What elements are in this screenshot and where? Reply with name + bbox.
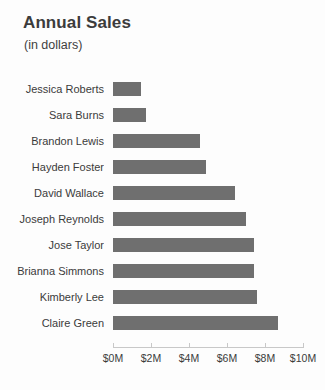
x-axis-tick <box>151 343 152 348</box>
bar-category-label: Hayden Foster <box>0 154 104 180</box>
bar-row: David Wallace <box>0 180 325 206</box>
x-axis-tick-label: $0M <box>103 352 123 364</box>
bar-row: Kimberly Lee <box>0 284 325 310</box>
bar-track <box>113 310 303 336</box>
x-axis-tick <box>113 343 114 348</box>
chart-subtitle: (in dollars) <box>24 38 82 52</box>
bar-category-label: Claire Green <box>0 310 104 336</box>
bar-category-label: Sara Burns <box>0 102 104 128</box>
x-axis-tick <box>303 343 304 348</box>
bar <box>113 238 254 252</box>
bar-category-label: Joseph Reynolds <box>0 206 104 232</box>
bar-row: Jessica Roberts <box>0 76 325 102</box>
chart-title: Annual Sales <box>23 13 131 33</box>
bar <box>113 134 200 148</box>
bar-row: Joseph Reynolds <box>0 206 325 232</box>
bar-row: Hayden Foster <box>0 154 325 180</box>
x-axis-tick <box>189 343 190 348</box>
bar-row: Sara Burns <box>0 102 325 128</box>
x-axis-tick <box>265 343 266 348</box>
x-axis-line <box>113 347 303 348</box>
annual-sales-bar-chart: Annual Sales (in dollars) Jessica Robert… <box>0 0 325 390</box>
bar <box>113 82 141 96</box>
bar-row: Claire Green <box>0 310 325 336</box>
x-axis-tick-label: $10M <box>290 352 316 364</box>
bar <box>113 290 257 304</box>
x-axis-tick-label: $2M <box>141 352 161 364</box>
bar-track <box>113 76 303 102</box>
bar-track <box>113 284 303 310</box>
bar-row: Brianna Simmons <box>0 258 325 284</box>
bar-track <box>113 180 303 206</box>
bar <box>113 108 146 122</box>
bar-track <box>113 154 303 180</box>
bar-track <box>113 258 303 284</box>
bar-category-label: Kimberly Lee <box>0 284 104 310</box>
bar <box>113 316 278 330</box>
x-axis-tick-label: $4M <box>179 352 199 364</box>
bar-category-label: Brianna Simmons <box>0 258 104 284</box>
plot-area: Jessica RobertsSara BurnsBrandon LewisHa… <box>0 76 325 351</box>
x-axis-tick <box>227 343 228 348</box>
x-axis-tick-label: $8M <box>255 352 275 364</box>
bar <box>113 186 235 200</box>
bar-row: Jose Taylor <box>0 232 325 258</box>
bar-category-label: Jose Taylor <box>0 232 104 258</box>
bar-category-label: David Wallace <box>0 180 104 206</box>
bar <box>113 264 254 278</box>
bar-category-label: Jessica Roberts <box>0 76 104 102</box>
x-axis-tick-label: $6M <box>217 352 237 364</box>
bar-track <box>113 128 303 154</box>
bar <box>113 212 246 226</box>
bar-row: Brandon Lewis <box>0 128 325 154</box>
bar-track <box>113 102 303 128</box>
bar-category-label: Brandon Lewis <box>0 128 104 154</box>
bar-track <box>113 206 303 232</box>
bar-track <box>113 232 303 258</box>
bar <box>113 160 206 174</box>
